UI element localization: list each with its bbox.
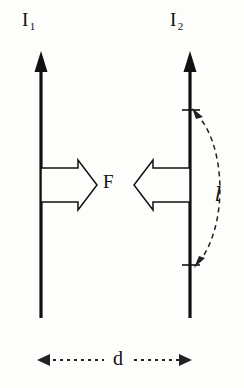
current-label-i2: I2 — [170, 10, 183, 29]
distance-arrowhead-left-icon — [37, 354, 50, 366]
left-wire-arrowhead-icon — [35, 51, 48, 72]
distance-arrowhead-right-icon — [179, 354, 192, 366]
force-arrow-left-icon — [41, 160, 97, 210]
diagram-canvas — [0, 0, 244, 388]
right-wire-arrowhead-icon — [184, 51, 197, 72]
force-label: F — [103, 172, 114, 191]
length-brace-arrowhead-bottom-icon — [194, 256, 205, 268]
current-label-i1: I1 — [22, 10, 35, 29]
current-label-i2-letter: I — [170, 9, 177, 30]
physics-diagram: I1 I2 F l d — [0, 0, 244, 388]
length-label: l — [215, 184, 221, 204]
current-label-i2-subscript: 2 — [178, 20, 184, 32]
force-arrow-right-icon — [134, 160, 190, 210]
current-label-i1-subscript: 1 — [30, 20, 36, 32]
distance-label: d — [113, 348, 123, 368]
current-label-i1-letter: I — [22, 9, 29, 30]
